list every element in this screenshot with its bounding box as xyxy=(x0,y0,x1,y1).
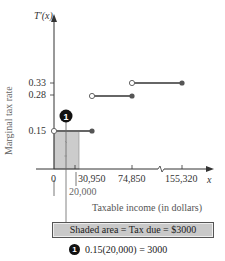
xtick-20000: 20,000 xyxy=(69,186,97,197)
axis-break-icon xyxy=(158,166,164,172)
ytick-028: 0.28 xyxy=(20,89,46,100)
annotation-note: 1 0.15(20,000) = 3000 xyxy=(69,244,167,255)
shaded-tax-area xyxy=(54,131,79,169)
marker-1-badge-icon: 1 xyxy=(69,244,80,255)
shaded-area-caption: Shaded area = Tax due = $3000 xyxy=(52,222,214,238)
xtick-0: 0 xyxy=(51,173,56,184)
ytick-015: 0.15 xyxy=(20,125,46,136)
y-axis-label: Marginal tax rate xyxy=(3,86,14,155)
ytick-033: 0.33 xyxy=(20,77,46,88)
x-axis-arrow-icon xyxy=(206,166,214,172)
xtick-30950: 30,950 xyxy=(78,173,106,184)
xtick-74850: 74,850 xyxy=(118,173,146,184)
x-axis-label: Taxable income (in dollars) xyxy=(92,202,202,213)
x-axis-title: x xyxy=(207,174,211,185)
svg-text:1: 1 xyxy=(63,112,68,122)
y-axis-title: T′(x) xyxy=(34,10,53,21)
annotation-text: 0.15(20,000) = 3000 xyxy=(85,244,167,255)
xtick-155320: 155,320 xyxy=(165,173,198,184)
